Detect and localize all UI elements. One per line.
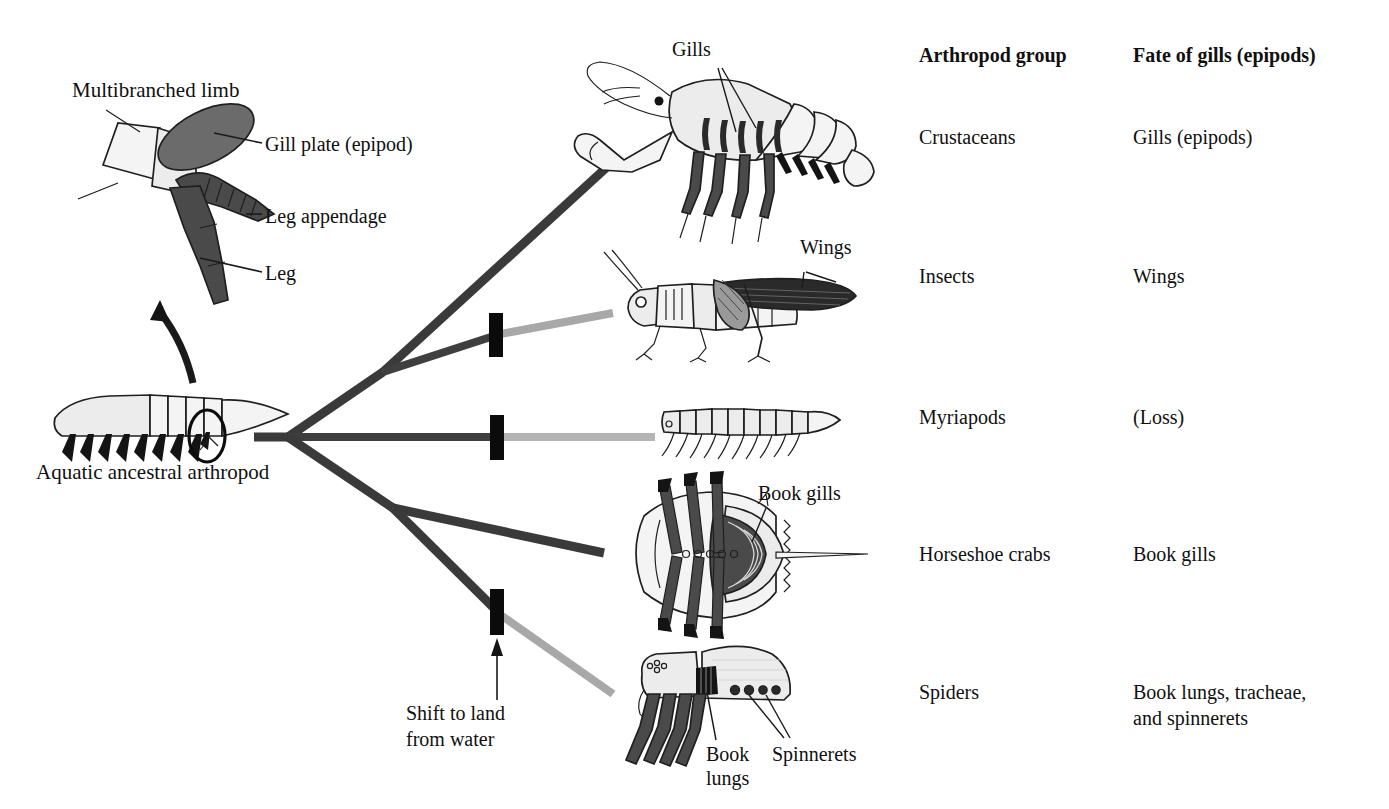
table-header-fate: Fate of gills (epipods)	[1133, 44, 1316, 68]
table-row-fate-crustaceans: Gills (epipods)	[1133, 126, 1252, 150]
crustacean-illustration	[574, 62, 874, 244]
table-row-fate-spiders-line1: Book lungs, tracheae,	[1133, 681, 1306, 705]
ancestor-caption: Aquatic ancestral arthropod	[36, 460, 269, 485]
label-insect-wings: Wings	[800, 236, 851, 260]
myriapod-illustration	[662, 409, 840, 459]
label-leg: Leg	[265, 262, 296, 286]
tree-branch-upper	[288, 372, 383, 437]
label-gill-plate: Gill plate (epipod)	[265, 133, 413, 157]
label-leg-appendage: Leg appendage	[265, 205, 387, 229]
land-shift-bar-myriapods	[490, 415, 504, 460]
label-spider-book-lungs-line2: lungs	[706, 767, 749, 791]
multibranched-limb-illustration	[78, 90, 274, 304]
tree-branch-spiders-terrestrial	[495, 611, 613, 694]
table-row-fate-insects: Wings	[1133, 265, 1184, 289]
table-row-group-horseshoe: Horseshoe crabs	[919, 543, 1051, 567]
tree-branch-insects-terrestrial	[495, 313, 613, 335]
label-spider-spinnerets: Spinnerets	[772, 743, 856, 767]
limb-panel-title: Multibranched limb	[72, 78, 239, 103]
label-horseshoe-book-gills: Book gills	[758, 482, 841, 506]
book-lungs-shape	[696, 666, 718, 696]
tree-branch-horseshoe	[393, 508, 604, 553]
land-shift-bar-insects	[489, 313, 503, 357]
table-row-group-spiders: Spiders	[919, 681, 979, 705]
table-row-group-insects: Insects	[919, 265, 975, 289]
shift-to-land-line2: from water	[406, 728, 494, 752]
label-spider-book-lungs-line1: Book	[706, 743, 749, 767]
leader-book-lungs	[707, 692, 716, 740]
table-header-group: Arthropod group	[919, 44, 1067, 68]
table-row-fate-horseshoe: Book gills	[1133, 543, 1216, 567]
table-row-group-crustaceans: Crustaceans	[919, 126, 1016, 150]
figure-canvas: Multibranched limb Gill plate (epipod) L…	[0, 0, 1389, 809]
land-shift-bar-spiders	[490, 589, 504, 635]
table-row-fate-spiders-line2: and spinnerets	[1133, 707, 1248, 731]
insect-illustration	[604, 250, 856, 362]
phylogenetic-tree	[254, 167, 655, 700]
ancestral-arthropod-illustration	[54, 300, 288, 462]
table-row-fate-myriapods: (Loss)	[1133, 406, 1184, 430]
tree-branch-lower	[288, 437, 393, 508]
table-row-group-myriapods: Myriapods	[919, 406, 1006, 430]
shift-to-land-line1: Shift to land	[406, 702, 505, 726]
label-crustacean-gills: Gills	[672, 38, 711, 62]
